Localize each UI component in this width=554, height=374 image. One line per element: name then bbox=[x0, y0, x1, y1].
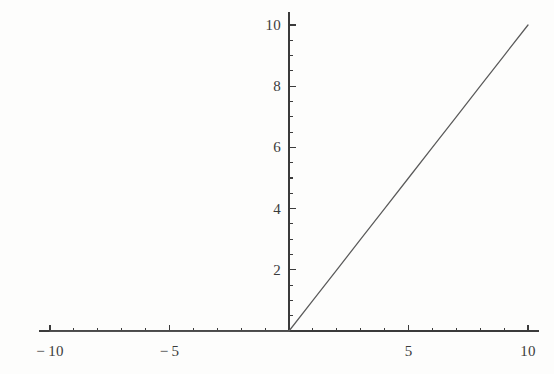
plot-figure: − 10− 5510 246810 bbox=[0, 0, 554, 374]
x-tick-label: 5 bbox=[405, 344, 413, 359]
x-tick-label: 10 bbox=[520, 344, 535, 359]
y-tick-label: 10 bbox=[266, 18, 281, 33]
x-tick-label: − 10 bbox=[36, 344, 63, 359]
y-tick-label: 4 bbox=[273, 201, 281, 216]
ticks-group bbox=[50, 25, 528, 331]
y-tick-label: 8 bbox=[273, 79, 281, 94]
y-tick-label: 6 bbox=[273, 140, 281, 155]
y-tick-label: 2 bbox=[273, 262, 281, 277]
x-tick-label: − 5 bbox=[160, 344, 180, 359]
axes-group bbox=[39, 12, 539, 331]
plot-canvas bbox=[0, 0, 554, 374]
